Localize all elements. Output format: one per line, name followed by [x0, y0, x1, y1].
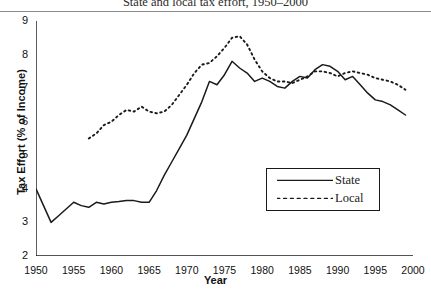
- series-line-local: [89, 36, 406, 138]
- y-axis-title: Tax Effort (% of Income): [15, 47, 27, 217]
- axes: [36, 21, 413, 256]
- legend-swatch-state: [277, 179, 333, 181]
- title-divider: [0, 11, 431, 12]
- legend-item-local: Local: [267, 189, 379, 207]
- plot-area: [36, 21, 413, 256]
- legend-label-state: State: [335, 172, 360, 188]
- legend-swatch-local: [277, 197, 333, 199]
- y-tick-label: 9: [2, 15, 28, 26]
- x-axis-title: Year: [0, 274, 431, 286]
- line-chart-svg: [36, 21, 413, 256]
- legend-item-state: State: [267, 171, 379, 189]
- chart-title: State and local tax effort, 1950–2000: [0, 0, 431, 9]
- legend-label-local: Local: [335, 190, 363, 206]
- figure: State and local tax effort, 1950–2000 23…: [0, 0, 431, 290]
- legend: State Local: [266, 168, 380, 211]
- y-tick-label: 2: [2, 250, 28, 261]
- y-tick-label: 3: [2, 216, 28, 227]
